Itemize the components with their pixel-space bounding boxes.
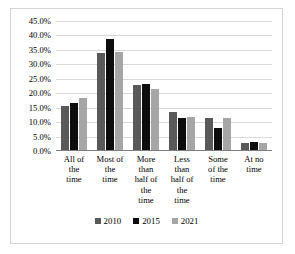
legend-swatch-icon <box>133 218 139 224</box>
legend-swatch-icon <box>95 218 101 224</box>
bar-2021-5[interactable] <box>223 118 231 151</box>
bar-2021-4[interactable] <box>187 117 195 151</box>
bar-group <box>92 21 128 151</box>
x-axis-line <box>56 150 272 151</box>
y-tick-label: 30.0% <box>29 60 51 69</box>
y-axis-labels: 45.0%40.0%35.0%30.0%25.0%20.0%15.0%10.0%… <box>11 21 54 151</box>
x-tick-label: More than half of the time <box>128 154 164 205</box>
bar-2015-1[interactable] <box>70 103 78 151</box>
y-tick-label: 10.0% <box>29 118 51 127</box>
y-tick-label: 40.0% <box>29 31 51 40</box>
legend-item-2010[interactable]: 2010 <box>95 217 122 226</box>
bar-2015-3[interactable] <box>142 84 150 151</box>
legend-label: 2021 <box>181 217 199 226</box>
bar-2021-1[interactable] <box>79 98 87 151</box>
y-tick-label: 45.0% <box>29 17 51 26</box>
bar-group <box>128 21 164 151</box>
bar-groups <box>56 21 272 151</box>
chart-figure: 45.0%40.0%35.0%30.0%25.0%20.0%15.0%10.0%… <box>10 8 283 244</box>
legend-item-2021[interactable]: 2021 <box>172 217 199 226</box>
bar-2021-2[interactable] <box>115 52 123 151</box>
y-tick-label: 0.0% <box>33 147 51 156</box>
bar-2021-3[interactable] <box>151 89 159 151</box>
bar-group <box>56 21 92 151</box>
bar-2010-1[interactable] <box>61 106 69 151</box>
y-tick-label: 25.0% <box>29 74 51 83</box>
y-tick-label: 20.0% <box>29 89 51 98</box>
bar-group <box>200 21 236 151</box>
x-tick-label: At no time <box>236 154 272 205</box>
x-tick-label: All of the time <box>56 154 92 205</box>
y-tick-label: 15.0% <box>29 103 51 112</box>
plot-area <box>56 21 272 151</box>
x-tick-label: Less than half of the time <box>164 154 200 205</box>
legend-item-2015[interactable]: 2015 <box>133 217 160 226</box>
legend-label: 2010 <box>104 217 122 226</box>
bar-2010-2[interactable] <box>97 53 105 151</box>
bar-2015-5[interactable] <box>214 128 222 151</box>
bar-group <box>164 21 200 151</box>
bar-group <box>236 21 272 151</box>
y-tick-label: 35.0% <box>29 46 51 55</box>
bar-2015-2[interactable] <box>106 39 114 151</box>
chart-legend: 201020152021 <box>11 217 282 226</box>
bar-2010-5[interactable] <box>205 118 213 151</box>
bar-2015-4[interactable] <box>178 118 186 151</box>
legend-swatch-icon <box>172 218 178 224</box>
y-tick-label: 5.0% <box>33 132 51 141</box>
bar-2010-4[interactable] <box>169 112 177 151</box>
legend-label: 2015 <box>142 217 160 226</box>
x-tick-label: Most of the time <box>92 154 128 205</box>
bar-2010-3[interactable] <box>133 85 141 151</box>
x-tick-label: Some of the time <box>200 154 236 205</box>
x-axis-labels: All of the timeMost of the timeMore than… <box>56 154 272 205</box>
